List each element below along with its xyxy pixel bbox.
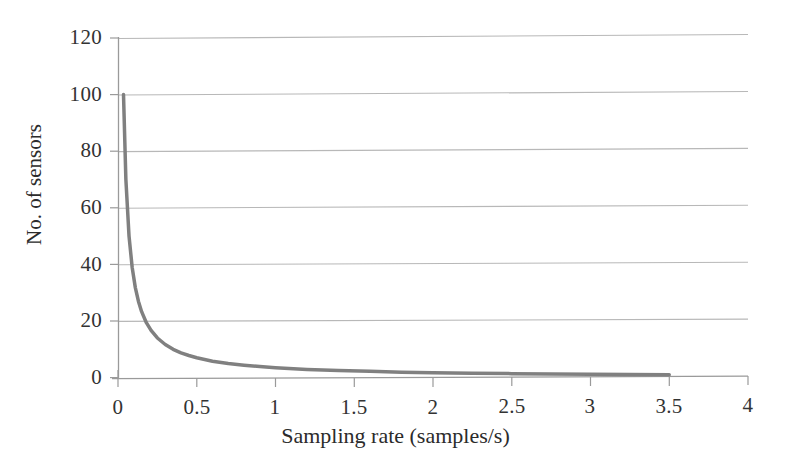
gridline-20 xyxy=(118,319,748,321)
gridline-40 xyxy=(118,262,748,265)
chart-container: 120 100 80 60 40 20 0 0 0.5 1 1.5 2 2.5 … xyxy=(0,0,791,474)
y-axis-title: No. of sensors xyxy=(24,85,45,285)
xtick-label-3_5: 3.5 xyxy=(634,396,704,417)
ytick-label-120: 120 xyxy=(28,27,102,48)
data-series-line xyxy=(124,95,670,375)
xtick-label-1: 1 xyxy=(240,397,310,418)
x-axis-line xyxy=(112,376,748,378)
xtick-label-4: 4 xyxy=(713,395,783,416)
xtick-label-1_5: 1.5 xyxy=(319,397,389,418)
gridline-80 xyxy=(118,148,748,151)
x-axis-title: Sampling rate (samples/s) xyxy=(0,425,791,447)
xtick-label-0_5: 0.5 xyxy=(162,397,232,418)
xtick-label-0: 0 xyxy=(83,397,153,418)
gridline-100 xyxy=(118,92,748,96)
xtick-label-2: 2 xyxy=(398,397,468,418)
ytick-label-20: 20 xyxy=(28,310,102,331)
gridline-60 xyxy=(118,205,748,208)
y-axis-ticks xyxy=(110,38,119,378)
ytick-label-0: 0 xyxy=(28,367,102,388)
xtick-label-2_5: 2.5 xyxy=(477,396,547,417)
gridline-120 xyxy=(118,35,748,39)
xtick-label-3: 3 xyxy=(555,396,625,417)
gridlines xyxy=(118,35,748,322)
